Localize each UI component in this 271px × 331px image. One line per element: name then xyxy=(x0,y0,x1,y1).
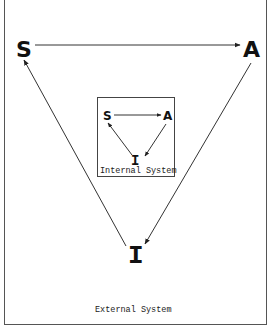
external-node-a: A xyxy=(243,37,260,62)
external-node-i: I xyxy=(128,241,144,271)
cycle-diagram: S A I External System S A I Internal Sys… xyxy=(0,0,271,331)
internal-system-label: Internal System xyxy=(100,166,177,176)
external-node-s: S xyxy=(16,37,32,62)
internal-node-s: S xyxy=(103,109,112,123)
internal-node-a: A xyxy=(163,109,173,123)
external-system-label: External System xyxy=(95,305,172,315)
internal-cycle: S A I Internal System xyxy=(98,98,177,177)
